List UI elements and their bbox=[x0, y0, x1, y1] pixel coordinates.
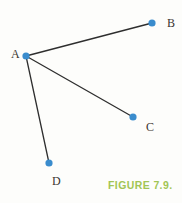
node-label-C: C bbox=[146, 120, 154, 134]
node-A bbox=[22, 52, 29, 59]
edge-A-C bbox=[26, 56, 133, 117]
figure-caption: FIGURE 7.9. bbox=[108, 179, 178, 191]
node-label-B: B bbox=[167, 16, 175, 30]
edges-layer bbox=[26, 23, 152, 163]
figure-7-9: ABCD FIGURE 7.9. bbox=[0, 0, 182, 203]
graph-canvas: ABCD bbox=[0, 0, 182, 203]
node-B bbox=[148, 19, 155, 26]
edge-A-D bbox=[26, 56, 49, 163]
node-C bbox=[129, 113, 136, 120]
node-label-A: A bbox=[11, 47, 20, 61]
nodes-layer bbox=[22, 19, 155, 166]
node-label-D: D bbox=[52, 174, 61, 188]
edge-A-B bbox=[26, 23, 152, 56]
node-D bbox=[45, 159, 52, 166]
